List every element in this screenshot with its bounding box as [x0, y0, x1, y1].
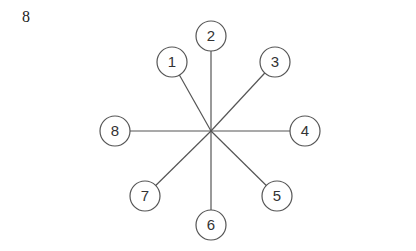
edge-7	[156, 131, 211, 185]
svg-text:6: 6	[207, 216, 215, 233]
node-7: 7	[130, 181, 160, 211]
svg-text:5: 5	[273, 187, 281, 204]
node-4: 4	[290, 116, 320, 146]
node-2: 2	[196, 21, 226, 51]
svg-text:7: 7	[141, 187, 149, 204]
star-diagram: 12345678	[0, 0, 416, 251]
node-1: 1	[157, 47, 187, 77]
svg-text:1: 1	[168, 53, 176, 70]
node-8: 8	[100, 116, 130, 146]
node-6: 6	[196, 210, 226, 240]
svg-text:3: 3	[271, 53, 279, 70]
node-5: 5	[262, 181, 292, 211]
svg-text:4: 4	[301, 122, 309, 139]
svg-text:8: 8	[111, 122, 119, 139]
svg-text:2: 2	[207, 27, 215, 44]
edge-5	[211, 131, 266, 185]
edge-1	[179, 75, 211, 131]
edge-3	[211, 73, 265, 131]
node-3: 3	[260, 47, 290, 77]
